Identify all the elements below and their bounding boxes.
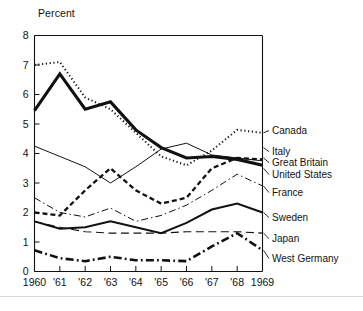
x-tick-label: 1969	[251, 276, 275, 288]
x-tick-label: '62	[78, 276, 92, 288]
x-axis-ticks: 1960'61'62'63'64'65'66'67'681969	[23, 266, 275, 288]
x-tick-label: '63	[104, 276, 118, 288]
legend-label-great-britain: Great Britain	[272, 157, 328, 168]
y-tick-label: 7	[23, 59, 29, 71]
legend-leader	[264, 131, 270, 133]
x-tick-label: '67	[205, 276, 219, 288]
legend-leader	[264, 186, 270, 193]
legend-label-france: France	[272, 187, 304, 198]
legend-leader	[264, 168, 270, 174]
series-line-united-states	[35, 143, 263, 183]
legend-label-italy: Italy	[272, 146, 290, 157]
legend-leader	[264, 158, 270, 163]
line-chart-plot: 012345678 1960'61'62'63'64'65'66'67'6819…	[0, 0, 363, 311]
x-tick-label: '65	[154, 276, 168, 288]
footer-divider	[0, 296, 363, 297]
series-line-great-britain	[35, 158, 263, 216]
x-tick-label: '68	[230, 276, 244, 288]
series-line-italy	[35, 74, 263, 165]
series-line-france	[35, 174, 263, 221]
legend-label-canada: Canada	[272, 125, 307, 136]
legend-leader	[264, 250, 270, 258]
y-tick-label: 6	[23, 88, 29, 100]
y-tick-label: 4	[23, 147, 29, 159]
x-tick-label: '61	[53, 276, 67, 288]
legend-label-west-germany: West Germany	[272, 253, 339, 264]
series-layer	[35, 62, 263, 261]
legend-leader-lines	[264, 131, 270, 259]
y-tick-label: 1	[23, 236, 29, 248]
x-tick-label: 1960	[23, 276, 47, 288]
y-tick-label: 2	[23, 206, 29, 218]
y-tick-label: 5	[23, 118, 29, 130]
series-line-west-germany	[35, 233, 263, 261]
legend-leader	[264, 213, 270, 218]
legend-label-japan: Japan	[272, 233, 299, 244]
legend-leader	[264, 148, 270, 152]
legend-label-sweden: Sweden	[272, 212, 308, 223]
y-tick-label: 8	[23, 29, 29, 41]
x-tick-label: '64	[129, 276, 143, 288]
chart-figure: Percent 012345678 1960'61'62'63'64'65'66…	[0, 0, 363, 311]
legend-labels: CanadaItalyGreat BritainUnited StatesFra…	[272, 125, 339, 264]
series-line-canada	[35, 62, 263, 165]
x-tick-label: '66	[180, 276, 194, 288]
y-axis-ticks: 012345678	[23, 29, 40, 277]
legend-leader	[264, 233, 270, 238]
y-tick-label: 3	[23, 177, 29, 189]
legend-label-united-states: United States	[272, 169, 332, 180]
